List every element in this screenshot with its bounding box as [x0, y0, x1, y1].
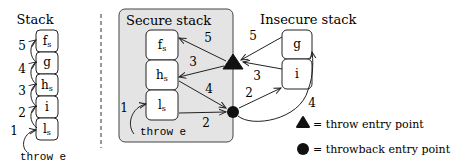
secure-frame-f: fs	[146, 30, 178, 60]
svg-text:g: g	[293, 37, 301, 51]
left-throw-label: throw e	[20, 151, 66, 163]
insecure-step-2: 2	[245, 86, 253, 100]
secure-step-1: 1	[120, 101, 128, 115]
throwback-entry-point-icon	[227, 106, 239, 118]
insecure-frame-g: g	[282, 30, 312, 59]
legend-throwback-entry: = throwback entry point	[313, 143, 451, 156]
legend-triangle-icon	[297, 117, 309, 127]
insecure-step-5: 5	[249, 29, 257, 43]
svg-text:g: g	[43, 55, 51, 69]
left-frame-l: ls	[36, 118, 58, 140]
left-frame-g: g	[36, 52, 58, 74]
left-step-4: 4	[18, 62, 26, 76]
secure-throw-label: throw e	[140, 126, 186, 138]
insecure-stack-title: Insecure stack	[260, 12, 356, 27]
secure-step-5: 5	[204, 31, 212, 45]
secure-frame-h: hs	[146, 60, 178, 90]
left-frame-f: fs	[36, 30, 58, 52]
left-frame-i: i	[36, 96, 58, 118]
left-stack: Stack fs g hs i ls 5 4 3 2 1	[10, 12, 66, 163]
left-stack-title: Stack	[16, 12, 53, 27]
svg-text:i: i	[45, 100, 49, 114]
secure-step-3: 3	[189, 55, 197, 69]
svg-text:i: i	[295, 67, 299, 81]
insecure-stack: Insecure stack g i	[260, 12, 356, 89]
legend: = throw entry point = throwback entry po…	[297, 117, 451, 156]
diagram-canvas: Stack fs g hs i ls 5 4 3 2 1	[0, 0, 468, 166]
legend-throw-entry: = throw entry point	[313, 118, 424, 131]
insecure-frame-i: i	[282, 59, 312, 89]
secure-step-2: 2	[202, 116, 210, 130]
left-step-1: 1	[10, 124, 18, 138]
secure-frame-l: ls	[146, 90, 178, 120]
legend-circle-icon	[297, 143, 309, 155]
secure-stack: Secure stack fs hs ls 1 throw e	[119, 9, 233, 142]
left-step-5: 5	[18, 39, 26, 53]
left-step-2: 2	[18, 106, 26, 120]
insecure-step-4: 4	[308, 96, 316, 110]
insecure-step-3: 3	[253, 69, 261, 83]
secure-step-4: 4	[205, 82, 213, 96]
left-step-3: 3	[18, 84, 26, 98]
secure-stack-title: Secure stack	[126, 13, 211, 28]
left-frame-h: hs	[36, 74, 58, 96]
